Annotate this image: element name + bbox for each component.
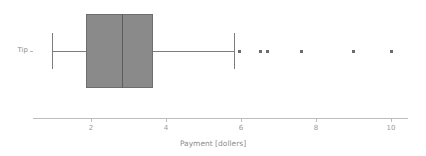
lower-whisker-cap bbox=[52, 33, 53, 69]
x-tick-mark bbox=[91, 119, 92, 122]
x-axis-title: Payment [dollers] bbox=[0, 139, 426, 148]
outlier-point bbox=[238, 50, 241, 53]
x-axis: 2 4 6 8 10 Payment [dollers] bbox=[0, 110, 426, 156]
median-line bbox=[122, 14, 123, 88]
x-tick-label: 4 bbox=[164, 124, 168, 132]
x-tick-label: 8 bbox=[314, 124, 318, 132]
outlier-point bbox=[266, 50, 269, 53]
x-tick-label: 10 bbox=[387, 124, 396, 132]
outlier-point bbox=[300, 50, 303, 53]
boxplot-figure: Tip 2 4 6 8 10 Payment [dol bbox=[0, 0, 426, 156]
outlier-point bbox=[352, 50, 355, 53]
x-tick-mark bbox=[166, 119, 167, 122]
outlier-point bbox=[390, 50, 393, 53]
box-iqr bbox=[86, 14, 153, 88]
x-tick-label: 2 bbox=[89, 124, 93, 132]
lower-whisker-line bbox=[52, 51, 87, 52]
x-tick-label: 6 bbox=[239, 124, 243, 132]
upper-whisker-line bbox=[152, 51, 234, 52]
x-axis-line bbox=[33, 118, 408, 119]
outlier-point bbox=[259, 50, 262, 53]
y-tick-label-tip: Tip bbox=[2, 46, 28, 54]
y-tick-mark bbox=[30, 51, 33, 52]
upper-whisker-cap bbox=[234, 33, 235, 69]
x-tick-mark bbox=[241, 119, 242, 122]
x-tick-mark bbox=[316, 119, 317, 122]
x-tick-mark bbox=[391, 119, 392, 122]
plot-area: Tip bbox=[0, 0, 426, 110]
